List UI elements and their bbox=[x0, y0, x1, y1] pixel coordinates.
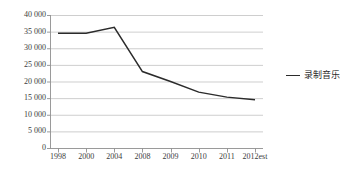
y-tick-label: 30 000 bbox=[2, 44, 46, 52]
y-tick-label: 40 000 bbox=[2, 11, 46, 19]
x-axis-tick-labels: 19982000200420082009201020112012est bbox=[0, 152, 275, 168]
x-tick-label: 2010 bbox=[191, 152, 207, 161]
y-tick-label: 5 000 bbox=[2, 127, 46, 135]
x-tick-label: 2008 bbox=[134, 152, 150, 161]
y-tick-label: 0 bbox=[2, 144, 46, 152]
y-tick-label: 15 000 bbox=[2, 94, 46, 102]
y-tick-label: 25 000 bbox=[2, 61, 46, 69]
y-tick-label: 35 000 bbox=[2, 28, 46, 36]
data-series bbox=[58, 27, 255, 99]
chart-legend: 录制音乐 bbox=[286, 70, 340, 80]
x-tick-label: 2000 bbox=[78, 152, 94, 161]
x-tick-label: 2012est bbox=[243, 152, 268, 161]
y-tick-label: 10 000 bbox=[2, 111, 46, 119]
y-axis-tick-labels: 05 00010 00015 00020 00025 00030 00035 0… bbox=[0, 0, 46, 174]
y-tick-label: 20 000 bbox=[2, 78, 46, 86]
legend-label-recorded-music: 录制音乐 bbox=[304, 70, 340, 80]
line-chart: 05 00010 00015 00020 00025 00030 00035 0… bbox=[0, 0, 353, 174]
y-tick-marks bbox=[47, 16, 50, 149]
x-tick-label: 1998 bbox=[50, 152, 66, 161]
x-tick-label: 2004 bbox=[106, 152, 122, 161]
x-tick-label: 2011 bbox=[219, 152, 235, 161]
legend-line-icon bbox=[286, 75, 300, 76]
x-tick-label: 2009 bbox=[163, 152, 179, 161]
chart-canvas bbox=[0, 0, 353, 174]
